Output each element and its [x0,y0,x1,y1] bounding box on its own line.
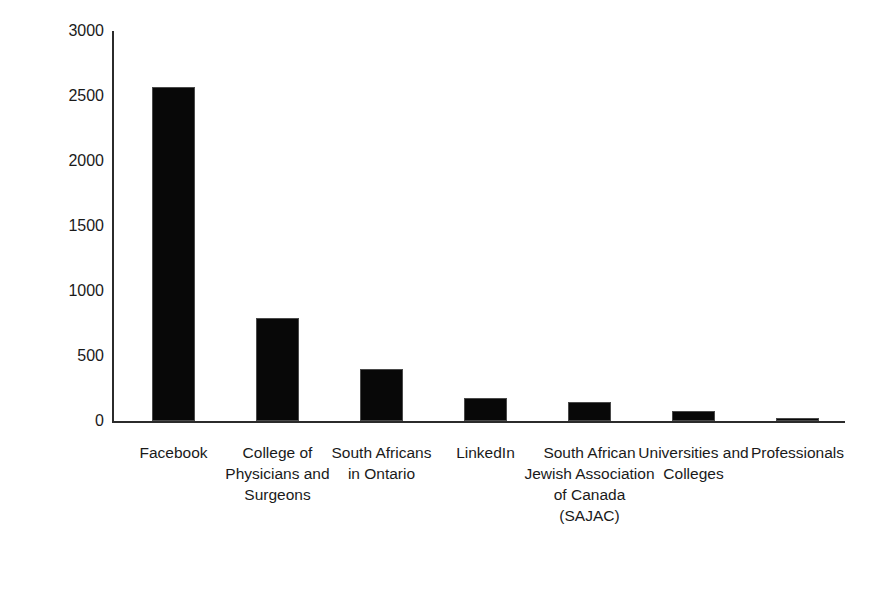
x-axis-line [112,421,845,423]
bars-layer [112,31,845,421]
bar [256,318,299,421]
bar [672,411,715,421]
x-tick-label: College of Physicians and Surgeons [220,442,336,505]
y-tick-label: 1000 [46,283,104,299]
bar [568,402,611,421]
x-tick-label: Facebook [116,442,232,463]
plot-area: 050010001500200025003000 [112,31,845,421]
y-tick-label: 2000 [46,153,104,169]
x-tick-label: Universities and Colleges [636,442,752,484]
x-tick-label: Professionals [740,442,856,463]
y-tick-label: 3000 [46,23,104,39]
bar [464,398,507,421]
y-tick-label: 1500 [46,218,104,234]
bar [776,418,819,421]
bar [360,369,403,421]
y-tick-label: 500 [46,348,104,364]
bar-chart: Number of individuals contacted 05001000… [0,0,874,602]
bar [152,87,195,421]
x-axis-labels: FacebookCollege of Physicians and Surgeo… [112,442,874,602]
y-tick-label: 2500 [46,88,104,104]
y-tick-label: 0 [46,413,104,429]
x-tick-label: South Africans in Ontario [324,442,440,484]
